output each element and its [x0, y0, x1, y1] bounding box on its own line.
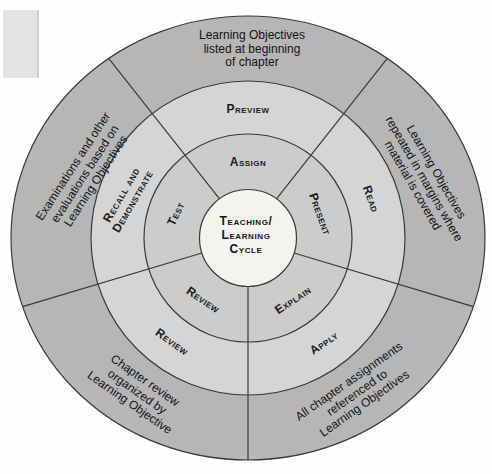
inner-label-assign: Assign — [230, 156, 267, 169]
outer-note-top-line1: Learning Objectives — [199, 29, 305, 43]
hub-label-line1: Teaching/ — [220, 214, 273, 228]
figure-teaching-learning-cycle: Teaching/ Learning Cycle Assign Present … — [0, 0, 492, 474]
hub-label: Teaching/ Learning Cycle — [220, 214, 273, 256]
hub-label-line3: Cycle — [220, 242, 273, 256]
hub-label-line2: Learning — [220, 228, 273, 242]
middle-label-preview: Preview — [226, 103, 269, 116]
outer-note-objectives-listed: Learning Objectives listed at beginning … — [199, 29, 305, 70]
outer-note-top-line3: of chapter — [199, 56, 305, 70]
outer-note-top-line2: listed at beginning — [199, 42, 305, 56]
